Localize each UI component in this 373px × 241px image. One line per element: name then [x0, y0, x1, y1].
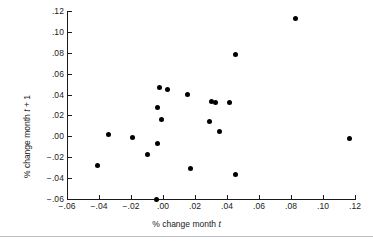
data-point: [217, 129, 222, 134]
y-tick-label: .00: [40, 131, 64, 141]
data-point: [185, 92, 190, 97]
x-tick-label: .02: [180, 201, 210, 211]
data-point: [293, 16, 298, 21]
y-tick-mark: [68, 199, 72, 200]
data-point: [106, 132, 111, 137]
x-axis-title-text: % change month: [152, 219, 218, 229]
y-tick-label: −.04: [40, 173, 64, 183]
data-point: [233, 52, 238, 57]
y-tick-label: .04: [40, 90, 64, 100]
y-tick-label: .12: [40, 6, 64, 16]
x-axis-line: [67, 199, 356, 200]
x-tick-label: .10: [308, 201, 338, 211]
y-tick-label: .06: [40, 69, 64, 79]
data-point: [154, 197, 159, 202]
data-point: [165, 87, 170, 92]
x-tick-mark: [355, 195, 356, 199]
y-axis-title: % change month t + 1: [22, 95, 32, 178]
page-bottom-rule: [0, 236, 373, 237]
data-point: [145, 152, 150, 157]
x-tick-label: .06: [244, 201, 274, 211]
data-point: [155, 105, 160, 110]
x-axis-title-variable: t: [218, 219, 220, 229]
data-point: [95, 163, 100, 168]
y-tick-label: .08: [40, 48, 64, 58]
data-point: [233, 172, 238, 177]
y-axis-title-variable: t: [22, 109, 32, 111]
x-axis-title: % change month t: [0, 219, 373, 229]
x-tick-label: .12: [340, 201, 370, 211]
x-tick-label: −.06: [52, 201, 82, 211]
y-tick-label: .10: [40, 27, 64, 37]
y-tick-label: .02: [40, 110, 64, 120]
data-point: [157, 85, 162, 90]
x-tick-label: −.02: [116, 201, 146, 211]
data-point: [188, 166, 193, 171]
data-point: [213, 100, 218, 105]
x-tick-label: −.04: [84, 201, 114, 211]
x-tick-label: .00: [148, 201, 178, 211]
plot-area: [67, 11, 355, 199]
data-point: [130, 135, 135, 140]
x-tick-label: .08: [276, 201, 306, 211]
data-point: [227, 100, 232, 105]
data-point: [207, 119, 212, 124]
data-point: [155, 141, 160, 146]
y-tick-label: −.02: [40, 152, 64, 162]
scatter-plot-figure: −.06−.04−.02.00.02.04.06.08.10.12 −.06−.…: [0, 0, 373, 241]
x-tick-label: .04: [212, 201, 242, 211]
y-axis-title-text: % change month: [22, 112, 32, 178]
data-point: [159, 117, 164, 122]
data-point: [347, 136, 352, 141]
y-axis-title-suffix: + 1: [22, 95, 32, 109]
